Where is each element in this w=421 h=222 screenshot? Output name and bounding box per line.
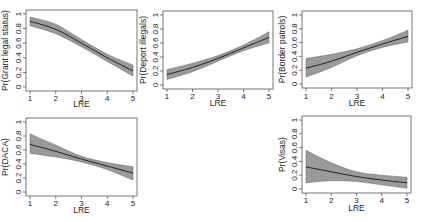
x-tick-label: 1 — [304, 196, 309, 205]
y-tick-label: 0.8 — [290, 23, 299, 35]
x-tick-label: 1 — [28, 199, 33, 208]
predicted-line — [30, 144, 133, 173]
y-tick-label: 0.4 — [290, 50, 299, 62]
confidence-band — [30, 134, 133, 180]
y-tick-label: 0.8 — [151, 23, 160, 35]
y-tick-label: 0.4 — [290, 155, 299, 167]
confidence-band — [306, 30, 408, 77]
y-tick-label: 0.6 — [290, 141, 299, 153]
x-tick-label: 4 — [241, 92, 246, 101]
y-tick-label: 0.4 — [14, 52, 23, 64]
y-axis-label: Pr(DACA) — [0, 138, 10, 176]
y-tick-label: 0.2 — [290, 169, 299, 181]
y-tick-label: 0.4 — [151, 51, 160, 63]
confidence-band — [167, 32, 269, 80]
y-tick-label: 0.2 — [14, 66, 23, 78]
y-tick-label: 0.8 — [290, 128, 299, 140]
x-tick-label: 4 — [105, 199, 110, 208]
x-tick-label: 2 — [54, 94, 59, 103]
y-tick-label: 0.8 — [14, 130, 23, 142]
x-tick-label: 2 — [329, 196, 334, 205]
panel-grant-legal-status: 00.20.40.60.8112345LREPr(Grant legal sta… — [0, 10, 137, 109]
y-axis-label: Pr(Visas) — [277, 137, 287, 172]
x-tick-label: 1 — [304, 92, 309, 101]
y-axis-label: Pr(Deport illegals) — [138, 16, 148, 84]
y-tick-label: 1 — [14, 119, 23, 124]
x-axis-label: LRE — [348, 203, 365, 213]
x-axis-label: LRE — [73, 205, 90, 215]
y-tick-label: 1 — [151, 12, 160, 17]
panel-daca: 00.20.40.60.8112345LREPr(DACA) — [0, 118, 137, 215]
x-tick-label: 2 — [329, 92, 334, 101]
x-tick-label: 4 — [380, 196, 385, 205]
y-tick-label: 1 — [290, 12, 299, 17]
y-tick-label: 0 — [290, 186, 299, 191]
x-tick-label: 4 — [105, 94, 110, 103]
x-axis-label: LRE — [73, 99, 90, 109]
panel-border-patrols: 00.20.40.60.8112345LREPr(Border patrols) — [277, 11, 412, 108]
x-tick-label: 5 — [267, 92, 272, 101]
y-tick-label: 0 — [290, 81, 299, 86]
panel-visas: 00.20.40.60.8112345LREPr(Visas) — [277, 116, 411, 213]
y-tick-label: 1 — [14, 11, 23, 16]
y-tick-label: 0.2 — [14, 172, 23, 184]
x-tick-label: 2 — [54, 199, 59, 208]
y-tick-label: 0.6 — [290, 36, 299, 48]
y-axis-label: Pr(Grant legal status) — [0, 10, 10, 91]
y-tick-label: 0 — [14, 84, 23, 89]
x-axis-label: LRE — [349, 98, 366, 108]
x-tick-label: 1 — [165, 92, 170, 101]
y-tick-label: 0.8 — [14, 22, 23, 34]
panel-deport-illegals: 00.20.40.60.8112345LREPr(Deport illegals… — [138, 11, 273, 108]
x-tick-label: 1 — [28, 94, 33, 103]
x-tick-label: 5 — [406, 92, 411, 101]
y-tick-label: 0.6 — [151, 37, 160, 49]
x-tick-label: 4 — [380, 92, 385, 101]
y-tick-label: 0.2 — [151, 65, 160, 77]
x-tick-label: 5 — [131, 199, 136, 208]
x-tick-label: 5 — [131, 94, 136, 103]
x-tick-label: 5 — [405, 196, 410, 205]
y-tick-label: 0.6 — [14, 144, 23, 156]
y-tick-label: 0.4 — [14, 158, 23, 170]
y-tick-label: 0.6 — [14, 37, 23, 49]
y-axis-label: Pr(Border patrols) — [277, 16, 287, 84]
x-axis-label: LRE — [210, 98, 227, 108]
y-tick-label: 1 — [290, 117, 299, 122]
chart-grid: 00.20.40.60.8112345LREPr(Grant legal sta… — [0, 0, 421, 222]
plot-frame — [163, 11, 273, 89]
y-tick-label: 0.2 — [290, 64, 299, 76]
y-tick-label: 0 — [151, 82, 160, 87]
x-tick-label: 2 — [190, 92, 195, 101]
y-tick-label: 0 — [14, 189, 23, 194]
